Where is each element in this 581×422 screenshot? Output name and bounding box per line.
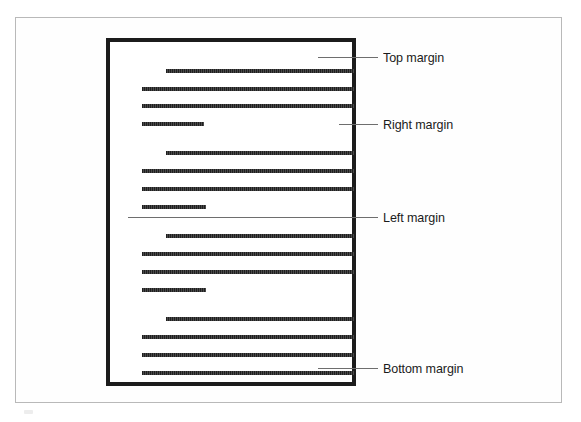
text-line <box>166 151 354 155</box>
text-line <box>142 335 354 339</box>
label-left-margin: Left margin <box>383 211 445 225</box>
leader-line-left-margin <box>128 217 378 218</box>
leader-line-top-margin <box>318 57 378 58</box>
scan-artifact <box>24 410 33 414</box>
text-line <box>142 288 206 292</box>
label-right-margin: Right margin <box>383 118 453 132</box>
label-bottom-margin: Bottom margin <box>383 362 463 376</box>
text-line <box>142 371 354 375</box>
label-top-margin: Top margin <box>383 51 444 65</box>
leader-line-bottom-margin <box>318 368 378 369</box>
text-line <box>142 104 354 108</box>
text-line <box>142 122 204 126</box>
diagram-canvas: Top margin Right margin Left margin Bott… <box>0 0 581 422</box>
text-line <box>166 317 354 321</box>
text-line <box>166 234 354 238</box>
text-line <box>142 353 354 357</box>
text-line <box>142 87 354 91</box>
page-text-body <box>106 38 356 386</box>
text-line <box>142 205 206 209</box>
leader-line-right-margin <box>339 124 378 125</box>
text-line <box>142 252 354 256</box>
text-line <box>166 69 354 73</box>
text-line <box>142 270 354 274</box>
text-line <box>142 187 354 191</box>
text-line <box>142 169 354 173</box>
